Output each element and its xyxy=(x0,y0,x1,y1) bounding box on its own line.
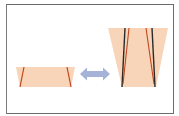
left-trapezoid xyxy=(16,67,75,87)
right-trapezoid xyxy=(108,28,168,87)
double-arrow-icon xyxy=(80,68,110,81)
right-trapezoid-fill xyxy=(108,28,168,87)
left-trapezoid-fill xyxy=(16,67,75,87)
diagram-canvas xyxy=(0,0,179,116)
